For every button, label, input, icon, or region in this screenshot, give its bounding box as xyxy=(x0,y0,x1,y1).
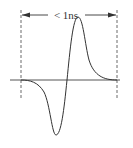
arrowhead-left-icon xyxy=(22,13,30,18)
pulse-diagram: < 1ns xyxy=(0,0,133,148)
arrowhead-right-icon xyxy=(108,13,116,18)
duration-label: < 1ns xyxy=(54,9,78,21)
pulse-waveform xyxy=(21,17,117,135)
